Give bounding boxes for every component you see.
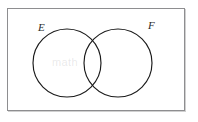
set-f-label: F [148,20,155,31]
venn-diagram-figure: math E F [0,0,198,122]
venn-circles-canvas [0,0,198,122]
set-e-label: E [38,22,45,33]
set-e-circle [33,29,101,97]
set-f-circle [84,29,152,97]
